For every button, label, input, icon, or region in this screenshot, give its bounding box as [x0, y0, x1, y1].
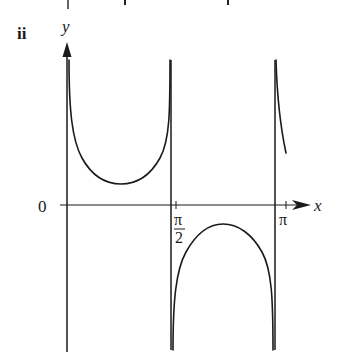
curve-branch-partial [276, 60, 286, 153]
tick-label-pi-over-2: π 2 [174, 211, 185, 246]
y-axis-arrowhead [63, 42, 72, 57]
tick-label-pi-over-2-numerator: π [174, 211, 182, 228]
cosec-graph-figure: ii y x 0 π 2 π [0, 0, 339, 354]
x-axis-label: x [313, 196, 322, 215]
curve-branch-upper [69, 60, 170, 184]
part-label: ii [17, 24, 27, 43]
tick-label-pi-over-2-denominator: 2 [175, 229, 183, 246]
origin-label: 0 [38, 197, 47, 216]
y-axis-label: y [60, 17, 70, 36]
tick-label-pi: π [279, 211, 287, 228]
curve-branch-lower [173, 224, 273, 350]
previous-figure-remnants [68, 0, 228, 9]
